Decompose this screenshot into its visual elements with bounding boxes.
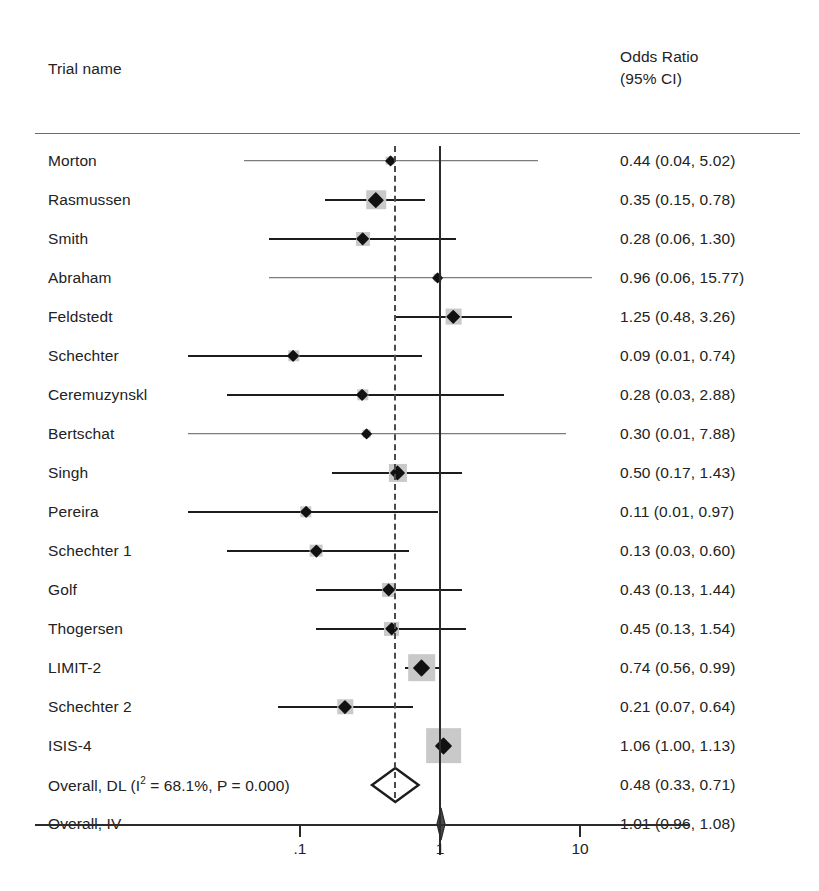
confidence-interval-line [188,355,422,357]
forest-row[interactable]: Feldstedt1.25 (0.48, 3.26) [0,297,819,336]
pooled-effect-dashed-line [394,146,396,798]
row-study-label: Pereira [48,503,99,521]
row-effect-estimate: 0.44 (0.04, 5.02) [620,152,735,170]
forest-row[interactable]: ISIS-41.06 (1.00, 1.13) [0,726,819,765]
forest-row[interactable]: Morton0.44 (0.04, 5.02) [0,141,819,180]
forest-row[interactable]: Schechter 10.13 (0.03, 0.60) [0,531,819,570]
forest-row[interactable]: Smith0.28 (0.06, 1.30) [0,219,819,258]
row-effect-estimate: 0.28 (0.03, 2.88) [620,386,735,404]
row-study-label: Overall, DL (I2 = 68.1%, P = 0.000) [48,775,290,794]
x-axis-tick [439,826,441,837]
x-axis-line [35,824,690,826]
row-study-label: Feldstedt [48,308,113,326]
forest-row[interactable]: Overall, DL (I2 = 68.1%, P = 0.000)0.48 … [0,765,819,804]
row-effect-estimate: 0.28 (0.06, 1.30) [620,230,735,248]
x-axis-tick-label: 10 [571,840,588,858]
row-study-label: Schechter 2 [48,698,132,716]
row-study-label: Abraham [48,269,112,287]
row-effect-estimate: 0.30 (0.01, 7.88) [620,425,735,443]
forest-row[interactable]: Bertschat0.30 (0.01, 7.88) [0,414,819,453]
forest-row[interactable]: LIMIT-20.74 (0.56, 0.99) [0,648,819,687]
row-effect-estimate: 0.13 (0.03, 0.60) [620,542,735,560]
odds-ratio-column-header: Odds Ratio [620,48,699,66]
row-study-label: Rasmussen [48,191,131,209]
forest-row[interactable]: Rasmussen0.35 (0.15, 0.78) [0,180,819,219]
forest-row[interactable]: Schechter0.09 (0.01, 0.74) [0,336,819,375]
forest-row[interactable]: Golf0.43 (0.13, 1.44) [0,570,819,609]
row-study-label: Smith [48,230,88,248]
row-study-label: Golf [48,581,77,599]
confidence-interval-line [188,433,566,435]
row-effect-estimate: 0.50 (0.17, 1.43) [620,464,735,482]
row-study-label: Bertschat [48,425,114,443]
row-study-label: Thogersen [48,620,123,638]
x-axis-tick-label: .1 [294,840,307,858]
row-study-label: Ceremuzynskl [48,386,147,404]
row-effect-estimate: 0.35 (0.15, 0.78) [620,191,735,209]
confidence-interval-line [188,511,438,513]
forest-row[interactable]: Abraham0.96 (0.06, 15.77) [0,258,819,297]
forest-row[interactable]: Schechter 20.21 (0.07, 0.64) [0,687,819,726]
forest-row[interactable]: Ceremuzynskl0.28 (0.03, 2.88) [0,375,819,414]
x-axis-tick [579,826,581,837]
row-study-label: Schechter 1 [48,542,132,560]
row-effect-estimate: 0.09 (0.01, 0.74) [620,347,735,365]
confidence-interval-line [269,277,592,279]
x-axis-tick-label: 1 [436,840,445,858]
null-effect-line [439,146,441,855]
row-effect-estimate: 0.45 (0.13, 1.54) [620,620,735,638]
header-divider-rule [35,133,800,134]
trial-name-column-header: Trial name [48,60,122,78]
forest-row[interactable]: Pereira0.11 (0.01, 0.97) [0,492,819,531]
row-effect-estimate: 0.74 (0.56, 0.99) [620,659,735,677]
row-effect-estimate: 0.21 (0.07, 0.64) [620,698,735,716]
row-study-label: ISIS-4 [48,737,92,755]
row-effect-estimate: 0.96 (0.06, 15.77) [620,269,744,287]
forest-plot: Trial name Odds Ratio (95% CI) Morton0.4… [0,0,819,891]
row-effect-estimate: 1.06 (1.00, 1.13) [620,737,735,755]
forest-row[interactable]: Singh0.50 (0.17, 1.43) [0,453,819,492]
row-effect-estimate: 0.43 (0.13, 1.44) [620,581,735,599]
row-study-label: Schechter [48,347,119,365]
row-effect-estimate: 0.48 (0.33, 0.71) [620,776,735,794]
row-study-label: Singh [48,464,88,482]
forest-row[interactable]: Thogersen0.45 (0.13, 1.54) [0,609,819,648]
confidence-interval-column-header: (95% CI) [620,70,682,88]
row-effect-estimate: 1.25 (0.48, 3.26) [620,308,735,326]
x-axis-tick [299,826,301,837]
row-study-label: Morton [48,152,97,170]
row-study-label: LIMIT-2 [48,659,101,677]
row-effect-estimate: 0.11 (0.01, 0.97) [620,503,734,521]
